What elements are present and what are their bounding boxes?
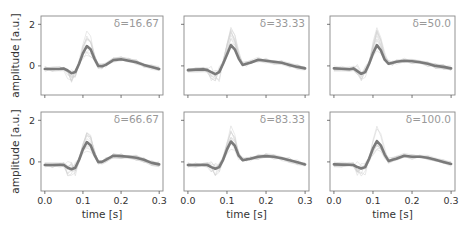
delta-annotation: δ=50.0: [412, 17, 451, 29]
panel-6: 0.00.10.20.3δ=100.0time [s]: [326, 112, 458, 220]
trace-line: [188, 31, 305, 81]
x-tick-label: 0.1: [219, 195, 234, 206]
panel-5: 0.00.10.20.3δ=83.33time [s]: [180, 112, 312, 220]
trace-line: [188, 149, 305, 175]
x-tick-label: 0.2: [258, 195, 273, 206]
trace-line: [334, 140, 451, 172]
mean-line: [45, 142, 159, 169]
trace-line: [188, 38, 305, 81]
y-axis-label: amplitude [a.u.]: [9, 13, 21, 97]
delta-annotation: δ=16.67: [114, 17, 159, 29]
trace-line: [188, 126, 305, 176]
trace-line: [45, 36, 159, 80]
x-tick-label: 0.0: [326, 195, 341, 206]
x-tick-label: 0.3: [444, 195, 459, 206]
mean-line: [334, 141, 451, 168]
delta-annotation: δ=83.33: [260, 113, 305, 125]
y-tick-label: 2: [29, 115, 35, 126]
x-axis-label: time [s]: [82, 208, 123, 220]
x-axis-label: time [s]: [372, 208, 413, 220]
x-tick-label: 0.1: [365, 195, 380, 206]
x-tick-label: 0.0: [37, 195, 52, 206]
trace-line: [188, 137, 305, 172]
x-tick-label: 0.2: [404, 195, 419, 206]
trace-line: [45, 39, 159, 79]
panel-4: 0.00.10.20.302δ=66.67time [s]amplitude […: [9, 109, 167, 220]
trace-line: [188, 35, 305, 79]
trace-line: [334, 41, 451, 80]
trace-line: [45, 40, 159, 82]
x-tick-label: 0.3: [298, 195, 313, 206]
trace-line: [334, 30, 451, 79]
trace-line: [334, 32, 451, 81]
mean-line: [334, 45, 451, 74]
x-tick-label: 0.0: [180, 195, 195, 206]
y-tick-label: 0: [29, 156, 35, 167]
trace-line: [45, 133, 159, 174]
trace-line: [188, 31, 305, 81]
mean-line: [188, 45, 305, 74]
trace-line: [334, 126, 451, 176]
x-tick-label: 0.1: [75, 195, 90, 206]
delta-annotation: δ=66.67: [114, 113, 159, 125]
x-tick-label: 0.2: [114, 195, 129, 206]
trace-line: [334, 129, 451, 176]
trace-line: [188, 138, 305, 175]
figure: 02δ=16.67amplitude [a.u.]δ=33.33δ=50.00.…: [0, 0, 474, 228]
y-axis-label: amplitude [a.u.]: [9, 109, 21, 193]
trace-line: [188, 39, 305, 72]
trace-line: [45, 135, 159, 176]
trace-line: [45, 133, 159, 176]
panel-3: δ=50.0: [327, 16, 455, 98]
mean-line: [188, 142, 305, 169]
trace-line: [45, 139, 159, 172]
y-tick-label: 2: [29, 19, 35, 30]
delta-annotation: δ=33.33: [260, 17, 305, 29]
panel-1: 02δ=16.67amplitude [a.u.]: [9, 13, 163, 98]
delta-annotation: δ=100.0: [406, 113, 451, 125]
x-tick-label: 0.3: [152, 195, 167, 206]
panel-2: δ=33.33: [181, 16, 309, 98]
y-tick-label: 0: [29, 60, 35, 71]
x-axis-label: time [s]: [226, 208, 267, 220]
